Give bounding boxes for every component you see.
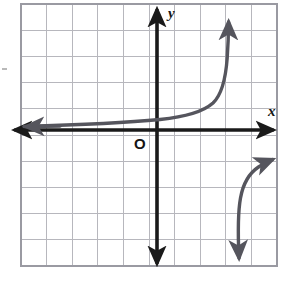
curve-left-tail bbox=[26, 126, 60, 127]
curve-lower-branch bbox=[238, 160, 272, 258]
function-curve bbox=[24, 22, 273, 258]
graph-figure: y x O bbox=[0, 0, 290, 281]
x-axis-label: x bbox=[268, 104, 276, 119]
origin-label: O bbox=[134, 136, 146, 151]
y-axis-label: y bbox=[168, 6, 175, 21]
curve-upper-branch bbox=[24, 22, 229, 127]
